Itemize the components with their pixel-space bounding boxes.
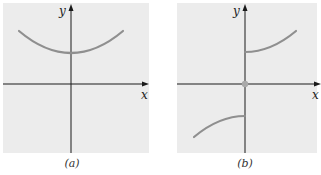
panel-a-background: [3, 3, 149, 153]
y-axis-label: y: [232, 4, 240, 18]
origin-point: [242, 81, 248, 87]
caption-a: (a): [52, 157, 92, 170]
y-axis-label: y: [58, 4, 66, 18]
x-axis-label: x: [141, 88, 148, 102]
panel-b-background: [177, 3, 317, 153]
graph-panel-a: y x: [3, 3, 149, 153]
graph-b-canvas: y x: [177, 3, 321, 153]
graph-panel-b: y x: [177, 3, 321, 153]
x-axis-arrow-icon: [314, 82, 321, 87]
graph-a-canvas: y x: [3, 3, 149, 153]
caption-b: (b): [225, 157, 265, 170]
x-axis-label: x: [312, 88, 319, 102]
